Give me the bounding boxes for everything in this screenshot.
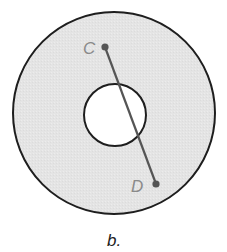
point-c	[101, 43, 108, 50]
label-d: D	[131, 177, 143, 196]
inner-circle	[84, 84, 146, 146]
figure-caption: b.	[107, 231, 121, 250]
point-d	[152, 180, 159, 187]
label-c: C	[83, 39, 96, 58]
annulus-diagram: C D b.	[0, 0, 227, 252]
